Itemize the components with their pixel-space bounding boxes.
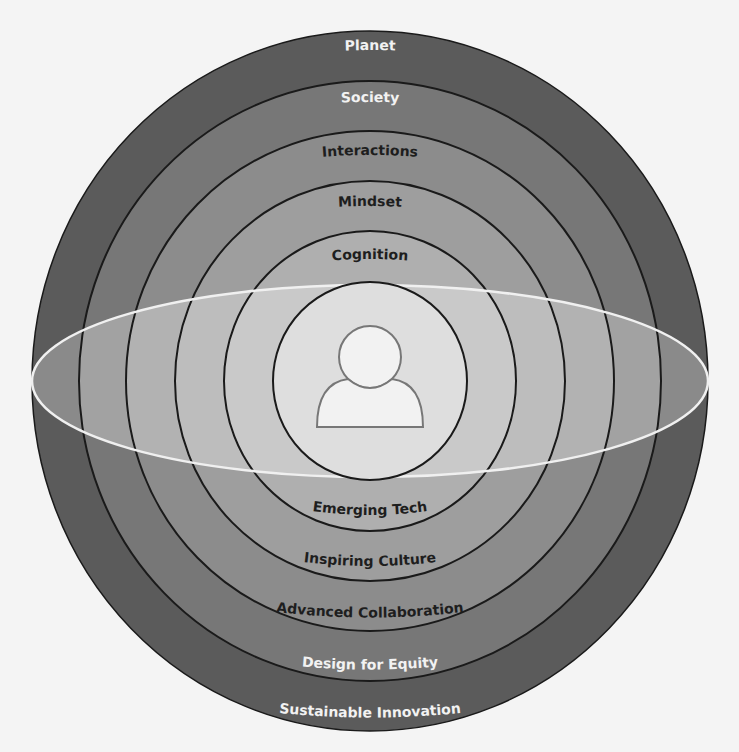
label-society: Society: [340, 89, 399, 106]
concentric-ring-diagram: Planet Society Interactions Mindset Cogn…: [0, 0, 739, 752]
label-cognition: Cognition: [331, 246, 409, 264]
label-mindset: Mindset: [338, 193, 403, 210]
label-planet: Planet: [344, 37, 396, 53]
